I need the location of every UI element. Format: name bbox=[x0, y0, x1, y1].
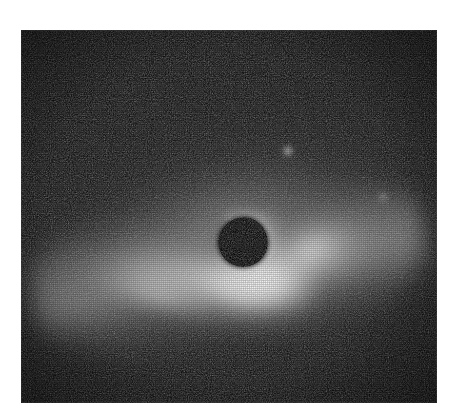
sky-background bbox=[21, 30, 437, 403]
field-star-1 bbox=[281, 144, 295, 158]
astronomical-image-panel bbox=[21, 30, 437, 403]
figure-page bbox=[0, 0, 457, 420]
field-star-2 bbox=[377, 191, 389, 203]
figure-caption bbox=[0, 0, 1, 1]
occulting-spot bbox=[218, 217, 268, 267]
